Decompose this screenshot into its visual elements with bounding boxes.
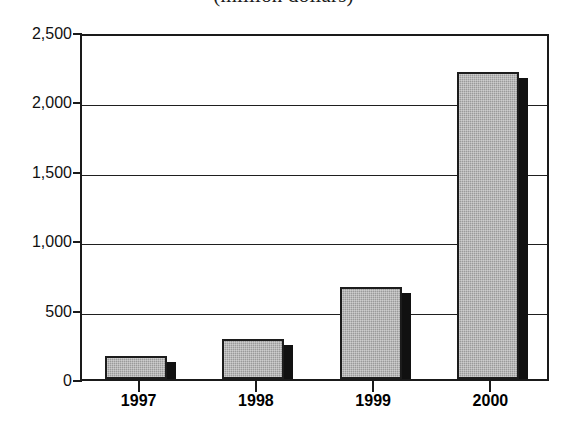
y-axis: 05001,0001,5002,0002,500 [0,34,72,381]
y-tick-label: 0 [63,372,72,390]
bar-body [457,72,519,379]
x-tick-mark [255,381,257,392]
x-tick-mark [372,381,374,392]
y-tick-label: 500 [45,303,72,321]
y-tick-label: 2,500 [32,25,72,43]
x-tick-label: 1999 [355,392,391,410]
y-tick-label: 1,000 [32,233,72,251]
bar-body [340,287,402,379]
x-tick-label: 2000 [473,392,509,410]
x-tick-label: 1998 [238,392,274,410]
y-tick-label: 1,500 [32,164,72,182]
bar-body [222,339,284,379]
bar [105,356,176,379]
chart-title: (million dollars) [0,0,567,8]
bar [457,72,528,379]
plot-area [80,34,549,381]
bar-body [105,356,167,379]
x-axis: 1997199819992000 [80,392,549,418]
x-tick-label: 1997 [121,392,157,410]
bar [222,339,293,379]
y-tick-label: 2,000 [32,94,72,112]
x-tick-mark [489,381,491,392]
x-tick-mark [138,381,140,392]
bar [340,287,411,379]
bar-chart-figure: (million dollars) 05001,0001,5002,0002,5… [0,0,567,443]
